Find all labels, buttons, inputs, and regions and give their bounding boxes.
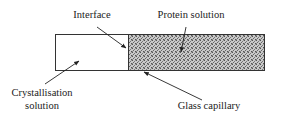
glass-capillary-arrow	[144, 72, 202, 100]
crystallisation-solution-label-line2: solution	[25, 100, 60, 111]
capillary-diagram: Interface Protein solution Crystallisati…	[0, 0, 281, 120]
glass-capillary-label: Glass capillary	[178, 100, 241, 111]
interface-label: Interface	[73, 9, 111, 20]
crystallisation-solution-label-line1: Crystallisation	[11, 87, 73, 98]
crystallisation-solution-region	[56, 35, 129, 71]
protein-solution-region	[129, 35, 265, 71]
protein-solution-label: Protein solution	[158, 9, 226, 20]
